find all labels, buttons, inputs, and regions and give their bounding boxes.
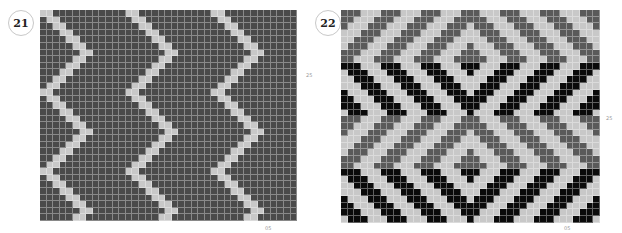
grid-cell [407,123,414,130]
grid-cell [381,37,388,44]
grid-cell [593,63,600,70]
grid-cell [119,23,126,30]
grid-cell [60,109,67,116]
grid-cell [159,135,166,142]
grid-cell [567,70,574,77]
grid-cell [178,17,185,24]
grid-cell [414,189,421,196]
side-label: 25 [306,72,312,78]
grid-cell [401,50,408,57]
grid-cell [172,23,179,30]
grid-cell [66,10,73,17]
grid-cell [520,136,527,143]
grid-cell [381,143,388,150]
grid-cell [527,90,534,97]
grid-cell [341,37,348,44]
grid-cell [284,214,291,221]
grid-cell [434,76,441,83]
grid-cell [414,90,421,97]
grid-cell [271,129,278,136]
grid-cell [244,195,251,202]
grid-cell [86,208,93,215]
grid-cell [119,83,126,90]
grid-cell [494,90,501,97]
grid-cell [540,76,547,83]
grid-cell [454,10,461,17]
grid-cell [587,50,594,57]
grid-cell [205,56,212,63]
grid-cell [218,109,225,116]
grid-cell [567,136,574,143]
grid-cell [500,30,507,37]
grid-cell [461,116,468,123]
grid-cell [40,142,47,149]
grid-cell [361,37,368,44]
grid-cell [258,148,265,155]
grid-cell [165,69,172,76]
grid-cell [554,163,561,170]
grid-cell [113,122,120,129]
grid-cell [573,130,580,137]
grid-cell [192,102,199,109]
grid-cell [66,30,73,37]
grid-cell [427,216,434,223]
grid-cell [244,208,251,215]
grid-cell [361,216,368,223]
grid-cell [540,203,547,210]
grid-cell [381,17,388,24]
grid-cell [547,123,554,130]
grid-cell [534,156,541,163]
grid-cell [291,201,298,208]
grid-cell [146,36,153,43]
grid-cell [434,116,441,123]
grid-cell [507,30,514,37]
grid-cell [487,169,494,176]
grid-cell [461,203,468,210]
grid-cell [421,116,428,123]
grid-cell [132,30,139,37]
grid-cell [487,23,494,30]
grid-cell [139,116,146,123]
grid-cell [374,63,381,70]
grid-cell [53,69,60,76]
grid-cell [554,76,561,83]
grid-cell [165,56,172,63]
grid-cell [547,183,554,190]
grid-cell [554,23,561,30]
grid-cell [192,76,199,83]
grid-cell [60,43,67,50]
grid-cell [146,168,153,175]
grid-cell [225,208,232,215]
grid-cell [534,189,541,196]
grid-cell [354,43,361,50]
grid-cell [205,162,212,169]
grid-cell [139,148,146,155]
grid-cell [441,63,448,70]
grid-cell [178,50,185,57]
grid-cell [447,56,454,63]
grid-cell [258,122,265,129]
grid-cell [554,123,561,130]
grid-cell [244,188,251,195]
grid-cell [211,30,218,37]
grid-cell [113,188,120,195]
grid-cell [500,176,507,183]
grid-cell [580,183,587,190]
grid-cell [507,10,514,17]
grid-cell [178,69,185,76]
grid-cell [414,149,421,156]
grid-cell [434,183,441,190]
grid-cell [447,189,454,196]
grid-cell [277,43,284,50]
grid-cell [178,56,185,63]
grid-cell [507,136,514,143]
grid-cell [291,50,298,57]
grid-cell [53,181,60,188]
grid-cell [53,195,60,202]
grid-cell [284,30,291,37]
grid-cell [251,69,258,76]
grid-cell [580,116,587,123]
grid-cell [251,135,258,142]
grid-cell [291,63,298,70]
grid-cell [277,195,284,202]
